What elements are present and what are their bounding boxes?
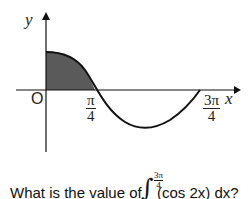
y-axis-arrow xyxy=(42,12,50,20)
origin-label: O xyxy=(31,90,43,108)
y-axis-label: y xyxy=(25,10,33,30)
tick-3pi-over-4: 3π 4 xyxy=(203,93,220,124)
x-axis-arrow xyxy=(234,86,241,94)
integrand: (cos 2x) dx? xyxy=(157,184,239,199)
integral-sign: ∫ xyxy=(141,176,154,199)
x-axis-label: x xyxy=(225,89,233,109)
function-graph xyxy=(0,0,248,170)
question-text: What is the value of xyxy=(10,184,142,199)
tick-pi-over-4: π 4 xyxy=(86,93,96,124)
